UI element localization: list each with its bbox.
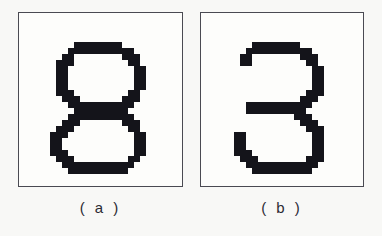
caption-b: ( b ) <box>200 199 364 216</box>
image-panel-b <box>200 12 364 187</box>
caption-a: ( a ) <box>18 199 183 216</box>
figure-root: ( a ) ( b ) <box>0 0 382 236</box>
digit-bitmap-eight <box>44 30 146 174</box>
image-panel-a <box>18 12 183 187</box>
digit-bitmap-three <box>222 30 330 174</box>
